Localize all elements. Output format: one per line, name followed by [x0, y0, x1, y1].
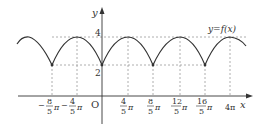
- tick-num: 8: [47, 97, 52, 106]
- tick-pi: π: [181, 103, 188, 112]
- tick-den: 5: [121, 107, 126, 116]
- y-axis-arrow-icon: [100, 7, 105, 14]
- x-axis-label: x: [240, 99, 246, 110]
- function-graph: y x 4 2 O y=f(x) − 8 5 π − 4 5 π 4 5 π 8…: [0, 0, 262, 128]
- tick-pi: π: [154, 103, 161, 112]
- tick-num: 8: [148, 97, 153, 106]
- tick-pi: π: [206, 103, 213, 112]
- origin-label: O: [91, 99, 99, 110]
- tick-den: 5: [174, 107, 179, 116]
- tick-4pi: 4π: [225, 103, 235, 112]
- x-tick-labels: − 8 5 π − 4 5 π 4 5 π 8 5 π 12 5 π 16 5 …: [38, 97, 235, 116]
- tick-den: 5: [148, 107, 153, 116]
- tick-pi: π: [53, 103, 60, 112]
- tick-minus: −: [61, 101, 68, 110]
- tick-den: 5: [47, 107, 52, 116]
- guide-lines: [52, 37, 246, 96]
- y-tick-2: 2: [95, 68, 101, 78]
- tick-pi: π: [76, 103, 83, 112]
- y-tick-4: 4: [95, 28, 101, 38]
- tick-minus: −: [38, 101, 45, 110]
- tick-pi: π: [127, 103, 134, 112]
- y-axis-label: y: [91, 7, 98, 18]
- tick-num: 12: [172, 97, 182, 106]
- tick-num: 4: [121, 97, 126, 106]
- function-label: y=f(x): [207, 24, 237, 34]
- tick-den: 5: [70, 107, 75, 116]
- tick-den: 5: [199, 107, 204, 116]
- curve: [17, 37, 246, 65]
- x-axis-arrow-icon: [246, 94, 253, 99]
- tick-num: 4: [70, 97, 75, 106]
- tick-num: 16: [197, 97, 207, 106]
